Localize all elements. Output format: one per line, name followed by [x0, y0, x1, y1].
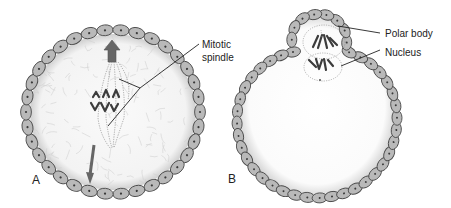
panel-a: Mitotic spindle A — [21, 24, 235, 200]
follicle-cell — [195, 104, 206, 120]
label-nucleus: Nucleus — [385, 47, 421, 58]
follicle-cell — [21, 104, 32, 120]
follicle-cell — [287, 32, 297, 47]
panel-b: Polar body Nucleus B — [228, 8, 433, 203]
panel-letter-b: B — [228, 172, 236, 186]
label-mitotic-spindle-line2: spindle — [202, 52, 234, 63]
label-polar-body: Polar body — [385, 28, 433, 39]
panel-letter-a: A — [32, 173, 40, 187]
oocyte-diagram: Mitotic spindle A — [0, 0, 451, 208]
label-mitotic-spindle-line1: Mitotic — [202, 39, 231, 50]
